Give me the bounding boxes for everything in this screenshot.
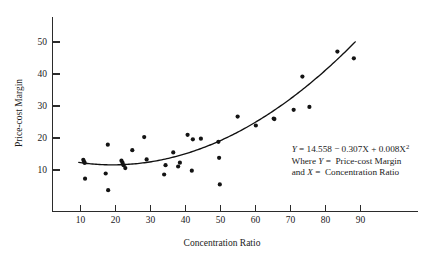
data-point (145, 157, 149, 161)
equation-line-3-prefix: and (292, 167, 308, 177)
equation-line-2-rest: = Price-cost Margin (323, 156, 401, 166)
x-tick-label-50: 50 (216, 215, 226, 225)
data-point (218, 182, 222, 186)
axis-spines (53, 17, 419, 212)
data-point (178, 161, 182, 165)
y-axis-ticks (53, 42, 60, 170)
x-tick-label-20: 20 (111, 215, 121, 225)
y-tick-label-40: 40 (38, 69, 48, 79)
scatter-plot-svg: 50 40 30 20 10 10 20 30 40 50 60 70 (0, 0, 431, 260)
data-point (186, 133, 190, 137)
equation-line-1-rest: = 14.558 − 0.307X + 0.008X (297, 144, 407, 154)
equation-superscript: 2 (406, 143, 409, 150)
data-point (352, 56, 356, 60)
y-tick-label-10: 10 (38, 165, 48, 175)
y-tick-label-20: 20 (38, 133, 48, 143)
x-tick-label-90: 90 (356, 215, 366, 225)
x-tick-label-80: 80 (321, 215, 331, 225)
x-axis-title: Concentration Ratio (184, 238, 261, 248)
data-point (130, 148, 134, 152)
data-point (171, 150, 175, 154)
x-axis-ticks (81, 205, 361, 212)
data-point (142, 135, 146, 139)
equation-line-3: and X = Concentration Ratio (271, 167, 415, 177)
data-point (292, 108, 296, 112)
data-point (335, 50, 339, 54)
x-tick-label-40: 40 (181, 215, 191, 225)
data-point (106, 188, 110, 192)
data-point (300, 74, 304, 78)
y-axis-tick-labels: 50 40 30 20 10 (38, 37, 48, 175)
equation-line-2: Where Y = Price-cost Margin (271, 156, 418, 166)
data-point (104, 171, 108, 175)
data-point (163, 163, 167, 167)
data-point (199, 137, 203, 141)
y-tick-label-50: 50 (38, 37, 48, 47)
x-axis-tick-labels: 10 20 30 40 50 60 70 80 90 (76, 215, 366, 225)
equation-line-2-prefix: Where (292, 156, 319, 166)
y-axis-title: Price-cost Margin (14, 79, 24, 147)
data-point (307, 105, 311, 109)
data-point (272, 117, 276, 121)
equation-line-3-rest: = Concentration Ratio (313, 167, 400, 177)
y-tick-label-30: 30 (38, 101, 48, 111)
data-point (217, 156, 221, 160)
data-point (83, 177, 87, 181)
data-point (176, 164, 180, 168)
x-tick-label-70: 70 (286, 215, 296, 225)
data-point (83, 161, 87, 165)
data-point (106, 143, 110, 147)
equation-line-1: Y = 14.558 − 0.307X + 0.008X2 (271, 141, 425, 154)
data-point (123, 166, 127, 170)
data-point (254, 123, 258, 127)
x-tick-label-10: 10 (76, 215, 86, 225)
data-point (236, 114, 240, 118)
chart-figure: 50 40 30 20 10 10 20 30 40 50 60 70 (0, 0, 431, 260)
equation-annotation: Y = 14.558 − 0.307X + 0.008X2 Where Y = … (271, 141, 425, 177)
x-tick-label-60: 60 (251, 215, 261, 225)
data-point (216, 140, 220, 144)
data-point (191, 137, 195, 141)
data-point (162, 172, 166, 176)
data-point (190, 169, 194, 173)
x-tick-label-30: 30 (146, 215, 156, 225)
